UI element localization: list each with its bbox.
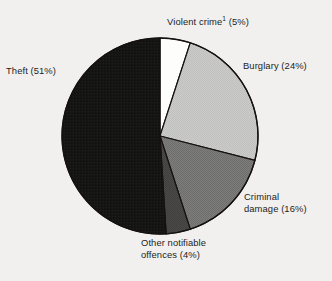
slice-label-burglary-text: Burglary (24%): [243, 60, 307, 71]
slice-label-violent-crime-value: (5%): [226, 16, 249, 27]
slice-label-violent-crime: Violent crime1 (5%): [143, 16, 273, 28]
slice-label-other-line1: Other notifiable: [141, 237, 206, 248]
slice-label-violent-crime-text: Violent crime: [167, 16, 222, 27]
slice-label-criminal-damage-line1: Criminal: [244, 191, 279, 202]
pie-chart: Violent crime1 (5%) Burglary (24%) Theft…: [0, 0, 332, 281]
slice-label-theft: Theft (51%): [6, 65, 80, 77]
slice-label-criminal-damage-line2: damage (16%): [244, 203, 307, 214]
slice-label-criminal-damage: Criminaldamage (16%): [244, 191, 330, 214]
slice-label-burglary: Burglary (24%): [243, 60, 331, 72]
slice-label-other-notifiable-offences: Other notifiableoffences (4%): [141, 237, 241, 260]
slice-label-other-line2: offences (4%): [141, 249, 200, 260]
slice-label-theft-text: Theft (51%): [6, 65, 56, 76]
